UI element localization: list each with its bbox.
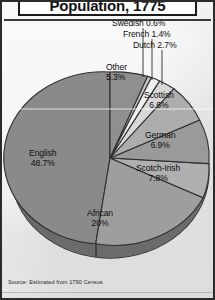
pie-label-german-value: 6.9% (145, 140, 175, 150)
pie-label-other: Other 5.3% (106, 62, 127, 82)
pie-label-african-value: 20% (87, 218, 113, 228)
pie-label-dutch: Dutch 2.7% (133, 40, 176, 50)
pie-label-african-name: African (87, 208, 113, 218)
pie-label-scotch-irish: Scotch-Irish 7.8% (136, 163, 180, 183)
pie-chart-figure: Swedish 0.6% French 1.4% Dutch 2.7% Othe… (0, 0, 215, 300)
pie-label-german: German 6.9% (145, 130, 175, 150)
pie-label-other-value: 5.3% (106, 72, 127, 82)
pie-label-other-name: Other (106, 62, 127, 72)
source-note: Source: Estimated from 1790 Census (8, 279, 103, 286)
pie-label-french: French 1.4% (123, 29, 171, 39)
pie-label-english: English 48.7% (29, 148, 57, 168)
page-title: Population, 1775 (20, 0, 195, 13)
pie-label-scottish-value: 6.6% (144, 100, 174, 110)
pie-label-english-value: 48.7% (29, 158, 57, 168)
pie-label-scotch-irish-value: 7.8% (136, 173, 180, 183)
pie-label-scotch-irish-name: Scotch-Irish (136, 163, 180, 173)
pie-label-scottish-name: Scottish (144, 90, 174, 100)
title-underline-rule (4, 19, 211, 21)
pie-label-german-name: German (145, 130, 175, 140)
pie-label-english-name: English (29, 148, 57, 158)
pie-label-scottish: Scottish 6.6% (144, 90, 174, 110)
pie-label-african: African 20% (87, 208, 113, 228)
chart-title-plate: Population, 1775 (18, 0, 197, 16)
bottom-rule (2, 292, 213, 293)
